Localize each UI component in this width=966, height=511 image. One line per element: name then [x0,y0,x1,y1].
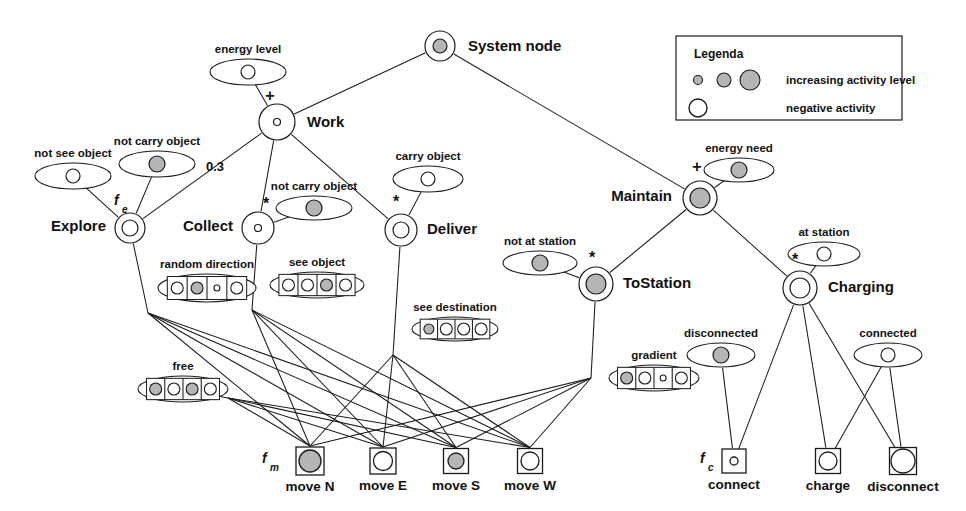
sensor-label-see-object: see object [289,256,345,268]
action-label-move-e: move E [359,478,407,493]
action-disconnect[interactable]: disconnect [867,448,939,494]
node-label-system: System node [468,37,561,54]
edge-disconnected-connect [723,368,733,448]
sensor-see-object: see object [270,256,364,298]
action-label-move-n: move N [286,479,335,494]
svg-text:m: m [270,462,279,473]
node-label-charging: Charging [828,278,894,295]
sensor-label-energy-level: energy level [215,43,281,55]
sensor-connected: connected [854,327,922,367]
edge-explore-notsee [83,185,118,217]
sensor-not-at-station: not at station [503,235,577,275]
svg-text:f: f [262,450,268,466]
legend-layer: Legendaincreasing activity levelnegative… [676,36,915,120]
node-work[interactable]: Work [259,104,345,140]
action-move-s[interactable]: move S [432,449,480,493]
weight-collect-weight: 0.3 [206,159,224,174]
edge-maintain-charging [713,210,786,276]
sensor-energy-level: energy level [210,43,286,85]
edge-explore-notcarry [136,177,151,213]
action-move-e[interactable]: move E [359,448,407,493]
action-label-disconnect: disconnect [867,479,939,494]
node-label-collect: Collect [183,217,233,234]
sensor-label-at-station: at station [798,226,849,238]
action-label-connect: connect [708,477,760,492]
legend-label-increasing: increasing activity level [786,74,915,86]
node-tostation[interactable]: ToStation [579,267,691,301]
sensor-energy-need: energy need [704,142,774,182]
sensor-label-disconnected: disconnected [684,327,758,339]
node-collect[interactable]: Collect [183,212,274,244]
operator-collect-star: * [263,195,270,212]
svg-text:e: e [122,204,128,215]
operator-deliver-star: * [393,193,400,210]
node-label-explore: Explore [51,217,106,234]
function-label-fc: fc [700,450,714,473]
operator-maintain-plus: + [692,158,701,175]
action-charge[interactable]: charge [806,449,851,493]
sensor-gradient: gradient [609,349,699,391]
sensor-random-direction: random direction [158,258,256,302]
edge-maintain-tostation [610,209,686,272]
node-label-work: Work [307,113,345,130]
edge-system-maintain [454,54,685,189]
node-explore[interactable]: Explore [51,213,145,243]
edge-connected-disconnect [890,368,901,447]
sensor-at-station: at station [788,226,860,266]
sensor-label-not-carry-coll: not carry object [271,180,357,192]
diagram-canvas: energy levelnot see objectnot carry obje… [0,0,966,511]
action-label-move-s: move S [432,478,480,493]
legend-title: Legenda [694,47,744,61]
operator-tostation-star: * [589,249,596,266]
sensor-label-free: free [172,360,193,372]
sensor-label-not-at-station: not at station [504,235,576,247]
node-label-deliver: Deliver [427,220,477,237]
node-system[interactable]: System node [425,31,561,61]
sensor-free: free [138,360,228,402]
fanout-free-fan [197,392,530,448]
node-charging[interactable]: Charging [783,271,894,305]
action-connect[interactable]: connect [708,449,760,492]
operator-charging-star: * [792,251,799,268]
sensor-see-destination: see destination [412,301,498,341]
activity-network-diagram: energy levelnot see objectnot carry obje… [0,0,966,511]
node-label-tostation: ToStation [623,274,691,291]
svg-text:f: f [700,450,706,466]
edge-charging-charge [803,306,826,448]
node-deliver[interactable]: Deliver [385,214,477,246]
node-label-maintain: Maintain [611,187,672,204]
legend-label-negative: negative activity [786,102,876,114]
svg-text:f: f [114,192,120,208]
sensor-label-carry-object: carry object [395,150,460,162]
action-layer: move Nmove Emove Smove Wconnectchargedis… [286,447,940,494]
action-move-n[interactable]: move N [286,447,335,494]
edge-connected-charge [835,366,882,449]
function-label-fm: fm [262,450,279,473]
sensor-not-carry-coll: not carry object [271,180,357,220]
svg-text:c: c [708,462,714,473]
sensor-not-see-object: not see object [34,147,111,189]
action-label-move-w: move W [504,478,556,493]
sensor-carry-object: carry object [393,150,463,192]
node-maintain[interactable]: Maintain [611,181,717,215]
sensor-label-see-destination: see destination [413,301,497,313]
sensor-label-connected: connected [859,327,917,339]
edge-deliver-carry [409,191,421,215]
sensor-label-gradient: gradient [631,349,677,361]
sensor-label-not-carry-work: not carry object [114,135,200,147]
edge-system-work [294,53,425,114]
operator-work-plus: + [265,87,274,104]
sensor-disconnected: disconnected [684,327,758,367]
sensor-not-carry-work: not carry object [114,135,200,177]
action-label-charge: charge [806,478,851,493]
action-move-w[interactable]: move W [504,449,556,493]
sensor-label-energy-need: energy need [705,142,773,154]
sensor-label-not-see-object: not see object [34,147,111,159]
function-label-fe: fe [114,192,128,215]
sensor-label-random-direction: random direction [160,258,254,270]
